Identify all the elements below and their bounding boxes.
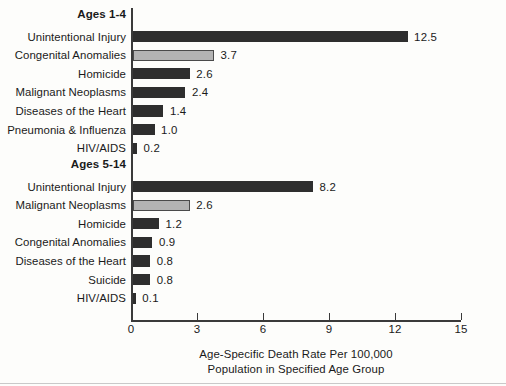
bar — [133, 105, 164, 116]
chart-row: Homicide1.2 — [0, 215, 506, 234]
chart-row: Homicide2.6 — [0, 65, 506, 84]
chart-row: Diseases of the Heart0.8 — [0, 252, 506, 271]
x-tick-label-3: 3 — [194, 323, 201, 335]
category-label: Congenital Anomalies — [0, 233, 126, 252]
bar — [133, 218, 159, 229]
scan-border-line — [0, 383, 506, 384]
bar-value-label: 12.5 — [414, 28, 437, 47]
bar-value-label: 0.1 — [142, 289, 158, 308]
bar — [133, 31, 408, 42]
x-tick-0 — [131, 313, 132, 320]
x-tick-label-9: 9 — [326, 323, 333, 335]
chart-row: Pneumonia & Influenza1.0 — [0, 121, 506, 140]
bar-value-label: 8.2 — [320, 178, 336, 197]
panel-heading-1: Ages 1-4 — [0, 8, 126, 20]
bar-chart: 03691215 Ages 1-4Unintentional Injury12.… — [0, 0, 506, 386]
chart-row: HIV/AIDS0.2 — [0, 139, 506, 158]
category-label: HIV/AIDS — [0, 289, 126, 308]
bar — [133, 181, 313, 192]
x-axis-caption: Age-Specific Death Rate Per 100,000Popul… — [131, 347, 461, 376]
bar-value-label: 0.8 — [157, 271, 173, 290]
bar-value-label: 0.9 — [159, 233, 175, 252]
chart-row: Unintentional Injury12.5 — [0, 28, 506, 47]
bar — [133, 124, 155, 135]
category-label: Unintentional Injury — [0, 28, 126, 47]
category-label: Malignant Neoplasms — [0, 83, 126, 102]
caption-line-2: Population in Specified Age Group — [131, 362, 461, 377]
chart-row: Congenital Anomalies3.7 — [0, 46, 506, 65]
x-tick-label-15: 15 — [454, 323, 467, 335]
bar-value-label: 3.7 — [221, 46, 237, 65]
bar-value-label: 1.4 — [170, 102, 186, 121]
category-label: Homicide — [0, 65, 126, 84]
bar-value-label: 2.6 — [196, 65, 212, 84]
bar — [133, 293, 136, 304]
x-tick-6 — [263, 313, 264, 320]
category-label: Suicide — [0, 271, 126, 290]
bar — [133, 87, 186, 98]
category-label: Unintentional Injury — [0, 178, 126, 197]
chart-row: Suicide0.8 — [0, 271, 506, 290]
category-label: Diseases of the Heart — [0, 102, 126, 121]
chart-row: Congenital Anomalies0.9 — [0, 233, 506, 252]
x-tick-12 — [395, 313, 396, 320]
bar-value-label: 0.8 — [157, 252, 173, 271]
category-label: Congenital Anomalies — [0, 46, 126, 65]
bar-highlighted — [133, 200, 190, 211]
bar — [133, 237, 153, 248]
x-tick-label-0: 0 — [128, 323, 135, 335]
bar-value-label: 1.2 — [166, 215, 182, 234]
x-tick-3 — [197, 313, 198, 320]
chart-row: Unintentional Injury8.2 — [0, 178, 506, 197]
bar-highlighted — [133, 50, 214, 61]
bar — [133, 255, 151, 266]
caption-line-1: Age-Specific Death Rate Per 100,000 — [131, 347, 461, 362]
bar-value-label: 1.0 — [161, 121, 177, 140]
category-label: Pneumonia & Influenza — [0, 121, 126, 140]
bar-value-label: 2.4 — [192, 83, 208, 102]
bar-value-label: 2.6 — [196, 196, 212, 215]
bar — [133, 274, 151, 285]
bar-value-label: 0.2 — [144, 139, 160, 158]
category-label: Homicide — [0, 215, 126, 234]
x-tick-label-12: 12 — [388, 323, 401, 335]
panel-heading-2: Ages 5-14 — [0, 158, 126, 170]
bar — [133, 143, 137, 154]
category-label: Diseases of the Heart — [0, 252, 126, 271]
category-label: HIV/AIDS — [0, 139, 126, 158]
x-tick-label-6: 6 — [260, 323, 267, 335]
chart-row: HIV/AIDS0.1 — [0, 289, 506, 308]
category-label: Malignant Neoplasms — [0, 196, 126, 215]
x-tick-15 — [461, 313, 462, 320]
x-axis-line — [131, 320, 461, 322]
chart-row: Malignant Neoplasms2.6 — [0, 196, 506, 215]
x-tick-9 — [329, 313, 330, 320]
chart-row: Diseases of the Heart1.4 — [0, 102, 506, 121]
chart-row: Malignant Neoplasms2.4 — [0, 83, 506, 102]
bar — [133, 68, 190, 79]
